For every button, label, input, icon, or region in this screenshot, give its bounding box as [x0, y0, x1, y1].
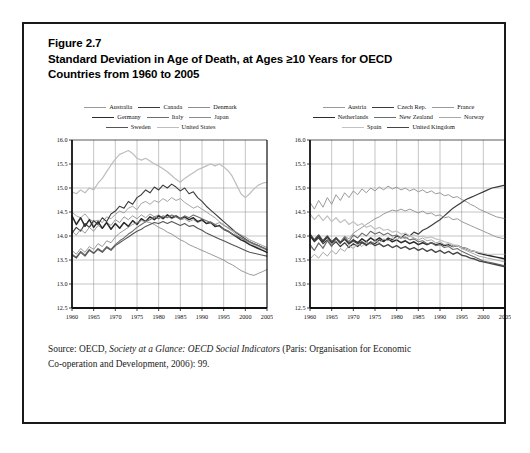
- legend-row: GermanyItalyJapan: [48, 112, 273, 122]
- legend-item-japan[interactable]: Japan: [189, 113, 228, 121]
- x-axis-tick-label: 1990: [196, 313, 208, 320]
- charts-row: AustraliaCanadaDenmarkGermanyItalyJapanS…: [36, 102, 494, 327]
- legend-swatch-line-icon: [138, 107, 160, 108]
- legend-row: SpainUnited Kingdom: [286, 122, 511, 132]
- legend-swatch-line-icon: [188, 107, 210, 108]
- x-axis-tick-label: 1985: [412, 313, 424, 320]
- legend-item-australia[interactable]: Australia: [84, 103, 132, 111]
- source-suffix: (Paris: Organisation for Economic: [280, 344, 411, 354]
- series-line-japan: [72, 221, 267, 276]
- y-axis-tick-label: 15.0: [57, 184, 68, 191]
- legend-label: Czech Rep.: [397, 103, 426, 111]
- figure-border-box: Figure 2.7 Standard Deviation in Age of …: [22, 22, 506, 424]
- y-axis-tick-label: 16.0: [295, 136, 306, 143]
- legend-row: SwedenUnited States: [48, 122, 273, 132]
- x-axis-tick-label: 1995: [455, 313, 467, 320]
- x-axis-tick-label: 1975: [369, 313, 381, 320]
- legend-label: Netherlands: [338, 113, 368, 121]
- x-axis-tick-label: 2005: [499, 313, 511, 320]
- x-axis-tick-label: 1980: [390, 313, 402, 320]
- legend-label: Australia: [109, 103, 132, 111]
- legend-label: Spain: [367, 123, 381, 131]
- x-axis-tick-label: 1985: [174, 313, 186, 320]
- legend-item-czech-rep[interactable]: Czech Rep.: [372, 103, 426, 111]
- legend-row: NetherlandsNew ZealandNorway: [286, 112, 511, 122]
- legend-label: Denmark: [213, 103, 236, 111]
- legend-label: Sweden: [131, 123, 151, 131]
- y-axis-tick-label: 14.0: [295, 232, 306, 239]
- legend-swatch-line-icon: [147, 117, 169, 118]
- series-line-france: [310, 209, 505, 250]
- y-axis-tick-label: 12.5: [57, 304, 68, 311]
- legend-label: Norway: [464, 113, 484, 121]
- legend-swatch-line-icon: [432, 107, 454, 108]
- legend-swatch-line-icon: [439, 117, 461, 118]
- legend-label: Germany: [117, 113, 140, 121]
- figure-page: Figure 2.7 Standard Deviation in Age of …: [0, 0, 530, 453]
- legend-label: Austria: [348, 103, 367, 111]
- y-axis-tick-label: 15.5: [57, 160, 68, 167]
- y-axis-tick-label: 14.5: [295, 208, 306, 215]
- plot-area-left: 12.513.013.514.014.515.015.516.019601965…: [48, 136, 273, 326]
- figure-title-block: Figure 2.7 Standard Deviation in Age of …: [48, 36, 478, 83]
- y-axis-tick-label: 15.5: [295, 160, 306, 167]
- x-axis-tick-label: 1995: [217, 313, 229, 320]
- legend-swatch-line-icon: [313, 117, 335, 118]
- legend-swatch-line-icon: [374, 117, 396, 118]
- y-axis-tick-label: 14.5: [57, 208, 68, 215]
- source-note: Source: OECD, Society at a Glance: OECD …: [48, 342, 488, 372]
- x-axis-tick-label: 1960: [304, 313, 316, 320]
- plot-area-right: 12.513.013.514.014.515.015.516.019601965…: [286, 136, 511, 326]
- legend-label: France: [457, 103, 474, 111]
- legend-item-united-kingdom[interactable]: United Kingdom: [387, 123, 455, 131]
- legend-swatch-line-icon: [189, 117, 211, 118]
- x-axis-tick-label: 2005: [261, 313, 273, 320]
- legend-item-spain[interactable]: Spain: [342, 123, 381, 131]
- line-chart-left: 12.513.013.514.014.515.015.516.019601965…: [48, 136, 273, 326]
- legend-item-austria[interactable]: Austria: [323, 103, 367, 111]
- x-axis-tick-label: 1970: [347, 313, 359, 320]
- legend-item-sweden[interactable]: Sweden: [106, 123, 151, 131]
- legend-item-germany[interactable]: Germany: [92, 113, 140, 121]
- series-line-united-states: [72, 151, 267, 198]
- legend-item-france[interactable]: France: [432, 103, 474, 111]
- figure-title-line-1: Standard Deviation in Age of Death, at A…: [48, 52, 478, 68]
- legend-swatch-line-icon: [323, 107, 345, 108]
- legend-row: AustriaCzech Rep.France: [286, 102, 511, 112]
- legend-swatch-line-icon: [106, 127, 128, 128]
- legend-item-norway[interactable]: Norway: [439, 113, 484, 121]
- figure-title-line-2: Countries from 1960 to 2005: [48, 67, 478, 83]
- legend-right: AustriaCzech Rep.FranceNetherlandsNew Ze…: [286, 102, 511, 136]
- x-axis-tick-label: 1990: [434, 313, 446, 320]
- y-axis-tick-label: 13.0: [57, 280, 68, 287]
- legend-label: United Kingdom: [412, 123, 455, 131]
- legend-left: AustraliaCanadaDenmarkGermanyItalyJapanS…: [48, 102, 273, 136]
- legend-label: United States: [182, 123, 216, 131]
- legend-item-new-zealand[interactable]: New Zealand: [374, 113, 433, 121]
- chart-panel-left: AustraliaCanadaDenmarkGermanyItalyJapanS…: [48, 102, 273, 327]
- x-axis-tick-label: 2000: [477, 313, 489, 320]
- x-axis-tick-label: 1980: [152, 313, 164, 320]
- x-axis-tick-label: 1975: [131, 313, 143, 320]
- legend-item-canada[interactable]: Canada: [138, 103, 182, 111]
- legend-swatch-line-icon: [387, 127, 409, 128]
- legend-swatch-line-icon: [157, 127, 179, 128]
- y-axis-tick-label: 13.5: [57, 256, 68, 263]
- legend-swatch-line-icon: [84, 107, 106, 108]
- legend-item-united-states[interactable]: United States: [157, 123, 216, 131]
- legend-row: AustraliaCanadaDenmark: [48, 102, 273, 112]
- legend-item-denmark[interactable]: Denmark: [188, 103, 236, 111]
- legend-item-netherlands[interactable]: Netherlands: [313, 113, 368, 121]
- y-axis-tick-label: 13.0: [295, 280, 306, 287]
- legend-label: New Zealand: [399, 113, 433, 121]
- chart-panel-right: AustriaCzech Rep.FranceNetherlandsNew Ze…: [286, 102, 511, 327]
- legend-label: Italy: [172, 113, 184, 121]
- series-line-australia: [72, 198, 267, 251]
- legend-item-italy[interactable]: Italy: [147, 113, 184, 121]
- legend-swatch-line-icon: [342, 127, 364, 128]
- y-axis-tick-label: 12.5: [295, 304, 306, 311]
- series-line-austria: [310, 186, 505, 219]
- legend-label: Japan: [214, 113, 228, 121]
- y-axis-tick-label: 14.0: [57, 232, 68, 239]
- y-axis-tick-label: 13.5: [295, 256, 306, 263]
